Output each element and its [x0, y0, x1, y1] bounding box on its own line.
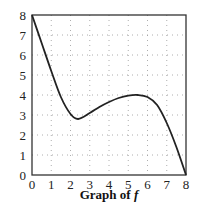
x-tick-label: 6 [144, 177, 151, 192]
x-tick-label: 8 [183, 177, 190, 192]
x-tick-label: 0 [29, 177, 36, 192]
chart-caption: Graph of f [80, 187, 140, 202]
graph-of-f-chart: 012345678 012345678 Graph of f [0, 0, 203, 215]
x-tick-label: 1 [48, 177, 55, 192]
y-tick-label: 7 [20, 28, 27, 43]
y-tick-label: 2 [20, 128, 27, 143]
x-tick-label: 2 [67, 177, 74, 192]
y-axis-ticks: 012345678 [20, 8, 27, 183]
grid-lines [32, 15, 186, 175]
y-tick-label: 5 [20, 68, 27, 83]
y-tick-label: 6 [20, 48, 27, 63]
y-tick-label: 1 [20, 148, 27, 163]
y-tick-label: 4 [20, 88, 27, 103]
y-tick-label: 3 [20, 108, 27, 123]
y-tick-label: 8 [20, 8, 27, 23]
x-tick-label: 7 [164, 177, 171, 192]
y-tick-label: 0 [20, 168, 27, 183]
